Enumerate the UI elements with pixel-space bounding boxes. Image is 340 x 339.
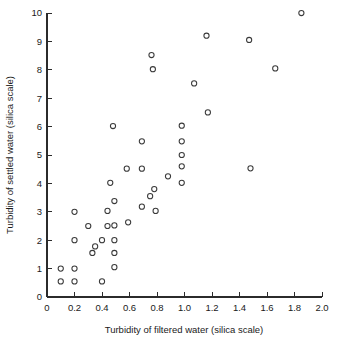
y-tick-label: 6: [37, 121, 42, 132]
data-point: [299, 10, 304, 15]
data-point: [150, 67, 155, 72]
data-point: [112, 198, 117, 203]
data-point: [105, 208, 110, 213]
y-tick-label: 7: [37, 93, 42, 104]
data-point: [139, 204, 144, 209]
data-point: [165, 174, 170, 179]
y-tick-label: 3: [37, 206, 42, 217]
y-tick-label: 4: [37, 178, 42, 189]
data-point: [139, 166, 144, 171]
data-point: [58, 279, 63, 284]
data-point: [99, 279, 104, 284]
data-point: [179, 180, 184, 185]
data-point: [72, 279, 77, 284]
scatter-plot-canvas: 012345678910 00.20.40.60.81.01.21.41.61.…: [0, 0, 340, 339]
data-point: [105, 223, 110, 228]
data-point: [99, 238, 104, 243]
data-point: [112, 265, 117, 270]
data-point: [179, 164, 184, 169]
data-point: [112, 223, 117, 228]
x-tick-label: 0: [44, 302, 49, 313]
data-point: [112, 238, 117, 243]
data-point: [72, 238, 77, 243]
y-tick-label: 9: [37, 36, 42, 47]
data-point: [149, 52, 154, 57]
x-tick-label: 0.6: [123, 302, 136, 313]
x-tick-label: 0.4: [95, 302, 108, 313]
data-point: [58, 266, 63, 271]
data-point: [72, 209, 77, 214]
x-tick-label: 1.8: [288, 302, 301, 313]
data-point: [86, 223, 91, 228]
data-point: [247, 37, 252, 42]
data-point: [110, 123, 115, 128]
data-point: [93, 244, 98, 249]
x-tick-label: 0.2: [68, 302, 81, 313]
x-tick-label: 2.0: [315, 302, 328, 313]
x-tick-label: 1.4: [233, 302, 246, 313]
y-axis-title: Turbidity of settled water (silica scale…: [4, 76, 15, 234]
data-point: [153, 208, 158, 213]
y-tick-label: 5: [37, 149, 42, 160]
data-point: [112, 250, 117, 255]
data-point: [179, 123, 184, 128]
data-point: [139, 139, 144, 144]
data-point: [204, 33, 209, 38]
y-tick-label: 1: [37, 263, 42, 274]
scatter-plot-figure: 012345678910 00.20.40.60.81.01.21.41.61.…: [0, 0, 340, 339]
x-axis-ticks: 00.20.40.60.81.01.21.41.61.82.0: [44, 292, 328, 313]
data-point: [126, 220, 131, 225]
data-point: [179, 152, 184, 157]
y-tick-label: 8: [37, 64, 42, 75]
data-point: [152, 186, 157, 191]
y-tick-label: 0: [37, 291, 42, 302]
y-tick-label: 10: [31, 7, 42, 18]
data-point: [148, 194, 153, 199]
data-point: [179, 139, 184, 144]
data-point: [248, 166, 253, 171]
data-point: [205, 110, 210, 115]
x-axis-title: Turbidity of filtered water (silica scal…: [105, 324, 264, 335]
data-point: [72, 266, 77, 271]
y-axis-ticks: 012345678910: [31, 7, 52, 302]
data-point: [108, 180, 113, 185]
data-point: [124, 166, 129, 171]
x-tick-label: 1.6: [260, 302, 273, 313]
y-tick-label: 2: [37, 235, 42, 246]
data-point: [273, 66, 278, 71]
x-tick-label: 0.8: [150, 302, 163, 313]
data-point-markers: [58, 10, 304, 284]
data-point: [192, 81, 197, 86]
x-tick-label: 1.0: [178, 302, 191, 313]
x-tick-label: 1.2: [205, 302, 218, 313]
data-point: [90, 250, 95, 255]
